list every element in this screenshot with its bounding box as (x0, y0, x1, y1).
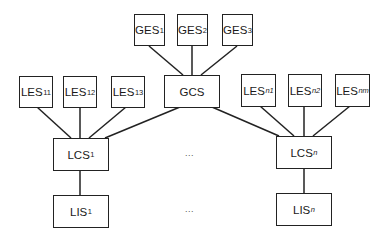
node-lisn: LISn (276, 193, 332, 226)
node-subscript: 13 (135, 88, 143, 97)
node-subscript: n (311, 205, 315, 214)
node-lcs1: LCS1 (53, 138, 109, 171)
node-label: LES (243, 85, 265, 97)
edge-gcs-lcsn (212, 107, 279, 136)
edge-lesn1-lcsn (260, 106, 294, 136)
node-lesnm: LESnm (335, 74, 370, 107)
node-label: LES (65, 86, 87, 98)
node-subscript: 1 (160, 26, 164, 35)
node-subscript: n1 (265, 86, 273, 95)
edge-ges3-gcs (201, 46, 237, 75)
node-label: LCS (290, 147, 312, 159)
node-label: LCS (67, 149, 89, 161)
node-les12: LES12 (63, 76, 97, 108)
ellipsis-interfaces: ... (185, 204, 194, 214)
node-ges1: GES1 (134, 14, 165, 46)
node-subscript: 12 (87, 88, 95, 97)
edge-lesnm-lcsn (313, 106, 350, 136)
node-subscript: 3 (248, 26, 252, 35)
node-subscript: 11 (43, 88, 51, 97)
node-lcsn: LCSn (276, 136, 332, 169)
node-label: GES (135, 24, 159, 36)
edge-les11-lcs1 (37, 107, 71, 138)
node-subscript: n (313, 148, 317, 157)
node-les13: LES13 (111, 76, 145, 108)
node-lesn2: LESn2 (288, 74, 322, 107)
node-label: LIS (293, 204, 310, 216)
node-label: LES (113, 86, 135, 98)
node-gcs: GCS (164, 75, 220, 108)
edge-les13-lcs1 (89, 107, 126, 138)
node-ges3: GES3 (222, 14, 253, 46)
node-label: GCS (180, 86, 205, 98)
node-label: LES (336, 85, 358, 97)
node-ges2: GES2 (177, 14, 208, 46)
node-label: GES (178, 24, 202, 36)
edge-gcs-lcs1 (105, 107, 180, 138)
node-subscript: nm (358, 86, 368, 95)
node-subscript: n2 (312, 86, 320, 95)
node-subscript: 1 (88, 207, 92, 216)
node-subscript: 1 (90, 150, 94, 159)
ellipsis-coordinators: ... (185, 148, 194, 158)
node-label: LES (21, 86, 43, 98)
node-subscript: 2 (203, 26, 207, 35)
node-les11: LES11 (19, 76, 53, 108)
node-lis1: LIS1 (53, 195, 109, 228)
edge-ges1-gcs (149, 46, 183, 75)
node-lesn1: LESn1 (241, 74, 276, 107)
node-label: LES (290, 85, 312, 97)
node-label: GES (223, 24, 247, 36)
node-label: LIS (70, 206, 87, 218)
